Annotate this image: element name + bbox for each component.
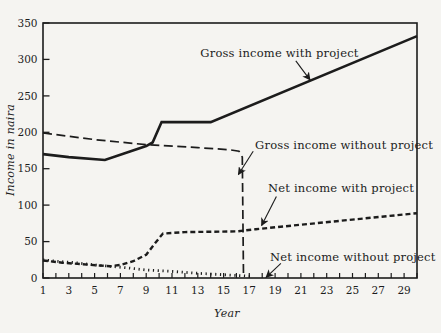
y-tick-label: 150	[17, 162, 37, 174]
scanned-chart-page: Income in naira 050100150200250300350135…	[0, 0, 441, 333]
x-tick-label: 7	[117, 284, 124, 296]
series-line-net-income-without-project	[43, 260, 253, 277]
callout-label-gross-income-with-project: Gross income with project	[200, 46, 358, 60]
callout-arrow	[296, 61, 310, 80]
x-axis-title: Year	[214, 307, 240, 320]
callout-label-net-income-with-project: Net income with project	[268, 181, 414, 195]
x-tick-label: 9	[143, 284, 150, 296]
x-tick-label: 15	[217, 284, 230, 296]
y-tick-label: 250	[17, 90, 37, 102]
x-tick-label: 23	[320, 284, 333, 296]
x-tick-label: 25	[346, 284, 359, 296]
callout-arrow	[238, 151, 253, 174]
x-tick-label: 21	[294, 284, 307, 296]
x-tick-label: 17	[243, 284, 256, 296]
y-tick-label: 100	[17, 199, 37, 211]
callout-arrow	[266, 263, 281, 277]
x-tick-label: 13	[191, 284, 204, 296]
x-tick-label: 27	[372, 284, 385, 296]
x-tick-label: 5	[91, 284, 98, 296]
y-tick-label: 50	[24, 235, 37, 247]
income-over-time-chart: 0501001502002503003501357911131517192123…	[0, 0, 441, 333]
x-tick-label: 11	[165, 284, 178, 296]
callout-label-gross-income-without-project: Gross income without project	[255, 138, 433, 152]
y-tick-label: 0	[31, 272, 38, 284]
y-tick-label: 300	[17, 53, 37, 65]
series-line-gross-income-without-project	[43, 133, 244, 277]
y-tick-label: 350	[17, 17, 37, 29]
x-tick-label: 1	[40, 284, 47, 296]
callout-label-net-income-without-project: Net income without project	[270, 250, 436, 264]
callout-arrow	[262, 196, 277, 225]
x-tick-label: 3	[65, 284, 72, 296]
x-tick-label: 29	[397, 284, 410, 296]
x-tick-label: 19	[268, 284, 281, 296]
y-tick-label: 200	[17, 126, 37, 138]
